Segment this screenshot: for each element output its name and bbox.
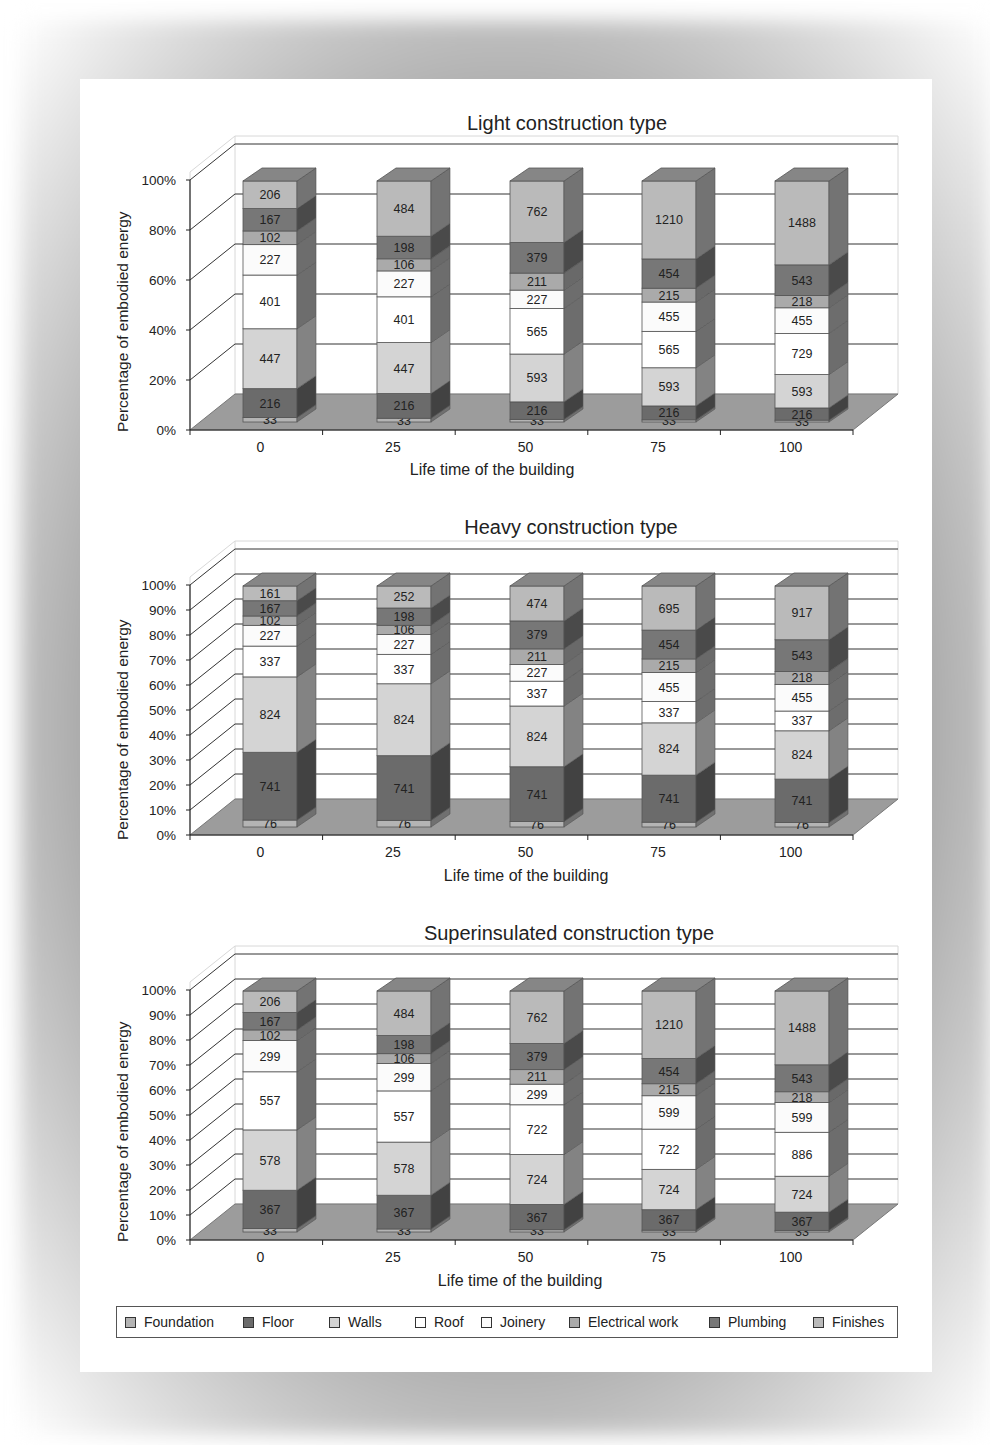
y-tick-label: 90% bbox=[149, 1008, 176, 1023]
legend-swatch-icon bbox=[709, 1317, 720, 1328]
bar-value-label: 167 bbox=[260, 1015, 281, 1029]
legend-swatch-icon bbox=[813, 1317, 824, 1328]
legend-item: Floor bbox=[243, 1314, 329, 1330]
bar-value-label: 367 bbox=[394, 1206, 415, 1220]
bar-value-label: 1210 bbox=[655, 1018, 683, 1032]
bar-value-label: 557 bbox=[260, 1094, 281, 1108]
legend-label: Foundation bbox=[144, 1314, 214, 1330]
chart-legend: FoundationFloorWallsRoofJoineryElectrica… bbox=[116, 1306, 898, 1338]
y-tick-label: 70% bbox=[149, 1058, 176, 1073]
y-tick-label: 60% bbox=[149, 1083, 176, 1098]
x-tick-label: 25 bbox=[385, 1249, 401, 1265]
legend-item: Walls bbox=[329, 1314, 415, 1330]
bar-value-label: 102 bbox=[260, 1029, 281, 1043]
y-axis-label: Percentage of embodied energy bbox=[114, 1021, 132, 1242]
x-axis-label: Life time of the building bbox=[438, 1272, 603, 1290]
legend-item: Electrical work bbox=[569, 1314, 709, 1330]
bar-value-label: 106 bbox=[394, 1052, 415, 1066]
bar-value-label: 299 bbox=[394, 1071, 415, 1085]
legend-swatch-icon bbox=[329, 1317, 340, 1328]
bar-value-label: 599 bbox=[792, 1111, 813, 1125]
bar-value-label: 211 bbox=[527, 1070, 547, 1084]
bar-value-label: 722 bbox=[527, 1123, 548, 1137]
bar-value-label: 299 bbox=[527, 1088, 548, 1102]
legend-label: Floor bbox=[262, 1314, 294, 1330]
legend-swatch-icon bbox=[243, 1317, 254, 1328]
bar-value-label: 367 bbox=[659, 1213, 680, 1227]
legend-label: Electrical work bbox=[588, 1314, 678, 1330]
legend-swatch-icon bbox=[125, 1317, 136, 1328]
bar-value-label: 215 bbox=[659, 1083, 680, 1097]
legend-item: Joinery bbox=[481, 1314, 569, 1330]
legend-label: Finishes bbox=[832, 1314, 884, 1330]
y-tick-label: 30% bbox=[149, 1158, 176, 1173]
bar-value-label: 367 bbox=[792, 1215, 813, 1229]
legend-swatch-icon bbox=[415, 1317, 426, 1328]
bar-value-label: 543 bbox=[792, 1072, 813, 1086]
y-tick-label: 20% bbox=[149, 1183, 176, 1198]
legend-item: Roof bbox=[415, 1314, 481, 1330]
legend-label: Joinery bbox=[500, 1314, 545, 1330]
legend-item: Finishes bbox=[813, 1314, 893, 1330]
bar-value-label: 722 bbox=[659, 1143, 680, 1157]
y-tick-label: 40% bbox=[149, 1133, 176, 1148]
y-tick-label: 50% bbox=[149, 1108, 176, 1123]
y-tick-label: 0% bbox=[156, 1233, 176, 1248]
x-tick-label: 50 bbox=[518, 1249, 534, 1265]
legend-swatch-icon bbox=[481, 1317, 492, 1328]
x-tick-label: 0 bbox=[256, 1249, 264, 1265]
legend-swatch-icon bbox=[569, 1317, 580, 1328]
bar-value-label: 724 bbox=[527, 1173, 548, 1187]
y-tick-label: 80% bbox=[149, 1033, 176, 1048]
bar-value-label: 299 bbox=[260, 1050, 281, 1064]
y-tick-label: 100% bbox=[141, 983, 176, 998]
bar-value-label: 599 bbox=[659, 1106, 680, 1120]
bar-value-label: 762 bbox=[527, 1011, 548, 1025]
bar-value-label: 724 bbox=[659, 1183, 680, 1197]
bar-value-label: 1488 bbox=[788, 1021, 816, 1035]
legend-label: Roof bbox=[434, 1314, 464, 1330]
bar-value-label: 557 bbox=[394, 1110, 415, 1124]
legend-label: Plumbing bbox=[728, 1314, 786, 1330]
bar-value-label: 367 bbox=[527, 1211, 548, 1225]
bar-value-label: 367 bbox=[260, 1203, 281, 1217]
x-tick-label: 100 bbox=[779, 1249, 803, 1265]
bar-value-label: 454 bbox=[659, 1065, 680, 1079]
bar-value-label: 578 bbox=[394, 1162, 415, 1176]
bar-value-label: 578 bbox=[260, 1154, 281, 1168]
bar-value-label: 206 bbox=[260, 995, 281, 1009]
legend-label: Walls bbox=[348, 1314, 382, 1330]
bar-value-label: 724 bbox=[792, 1188, 813, 1202]
bar-value-label: 379 bbox=[527, 1050, 548, 1064]
y-tick-label: 10% bbox=[149, 1208, 176, 1223]
bar-value-label: 198 bbox=[394, 1038, 415, 1052]
bar-value-label: 218 bbox=[792, 1091, 813, 1105]
bar-value-label: 886 bbox=[792, 1148, 813, 1162]
legend-item: Foundation bbox=[125, 1314, 243, 1330]
x-tick-label: 75 bbox=[650, 1249, 666, 1265]
legend-item: Plumbing bbox=[709, 1314, 813, 1330]
bar-value-label: 484 bbox=[394, 1007, 415, 1021]
